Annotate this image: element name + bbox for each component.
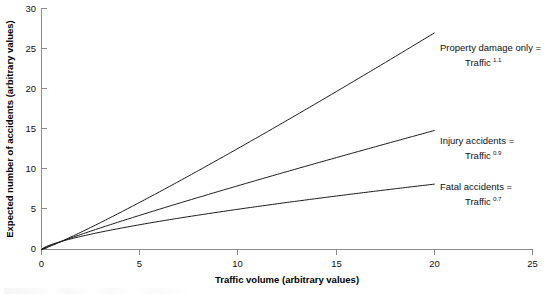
annotation-property-damage: Property damage only = Traffic1.1 xyxy=(440,42,542,68)
annotation-fatal-accidents: Fatal accidents = Traffic0.7 xyxy=(440,181,513,207)
x-tick-label-20: 20 xyxy=(429,258,440,269)
y-tick-label-15: 15 xyxy=(25,123,36,134)
annotation-fatal-exponent: 0.7 xyxy=(493,195,502,202)
accidents-vs-traffic-chart: 30 25 20 15 10 5 0 0 5 10 15 20 25 Traf xyxy=(0,0,551,296)
annotation-fatal-base: Traffic xyxy=(465,196,491,207)
x-axis-ticks xyxy=(42,250,533,255)
y-axis-title: Expected number of accidents (arbitrary … xyxy=(4,20,15,238)
annotation-property-damage-exponent: 1.1 xyxy=(493,56,502,63)
curve-fatal-accidents xyxy=(42,184,435,249)
annotation-injury-accidents: Injury accidents = Traffic0.9 xyxy=(440,135,515,161)
annotation-property-damage-line2: Traffic1.1 xyxy=(465,56,502,68)
x-tick-label-5: 5 xyxy=(137,258,142,269)
y-axis-ticks xyxy=(42,9,47,249)
annotation-fatal-line2: Traffic0.7 xyxy=(465,195,502,207)
y-tick-label-10: 10 xyxy=(25,163,36,174)
x-axis-title: Traffic volume (arbitrary values) xyxy=(215,274,359,285)
chart-figure: 30 25 20 15 10 5 0 0 5 10 15 20 25 Traf xyxy=(0,0,551,296)
x-tick-label-15: 15 xyxy=(331,258,342,269)
y-tick-label-5: 5 xyxy=(31,203,36,214)
x-axis-tick-labels: 0 5 10 15 20 25 xyxy=(39,258,538,269)
annotation-fatal-line1: Fatal accidents = xyxy=(440,181,513,192)
page-footer-artifact xyxy=(4,288,194,294)
annotation-property-damage-line1: Property damage only = xyxy=(440,42,542,53)
annotation-injury-base: Traffic xyxy=(465,150,491,161)
x-tick-label-10: 10 xyxy=(232,258,243,269)
y-tick-label-0: 0 xyxy=(31,243,36,254)
x-tick-label-0: 0 xyxy=(39,258,44,269)
annotation-property-damage-base: Traffic xyxy=(465,57,491,68)
annotation-injury-line2: Traffic0.9 xyxy=(465,149,502,161)
y-tick-label-30: 30 xyxy=(25,3,36,14)
y-tick-label-25: 25 xyxy=(25,43,36,54)
annotation-injury-exponent: 0.9 xyxy=(493,149,502,156)
y-tick-label-20: 20 xyxy=(25,83,36,94)
annotation-injury-line1: Injury accidents = xyxy=(440,135,515,146)
x-tick-label-25: 25 xyxy=(527,258,538,269)
y-axis-tick-labels: 30 25 20 15 10 5 0 xyxy=(25,3,36,254)
curve-property-damage-only xyxy=(42,33,435,250)
